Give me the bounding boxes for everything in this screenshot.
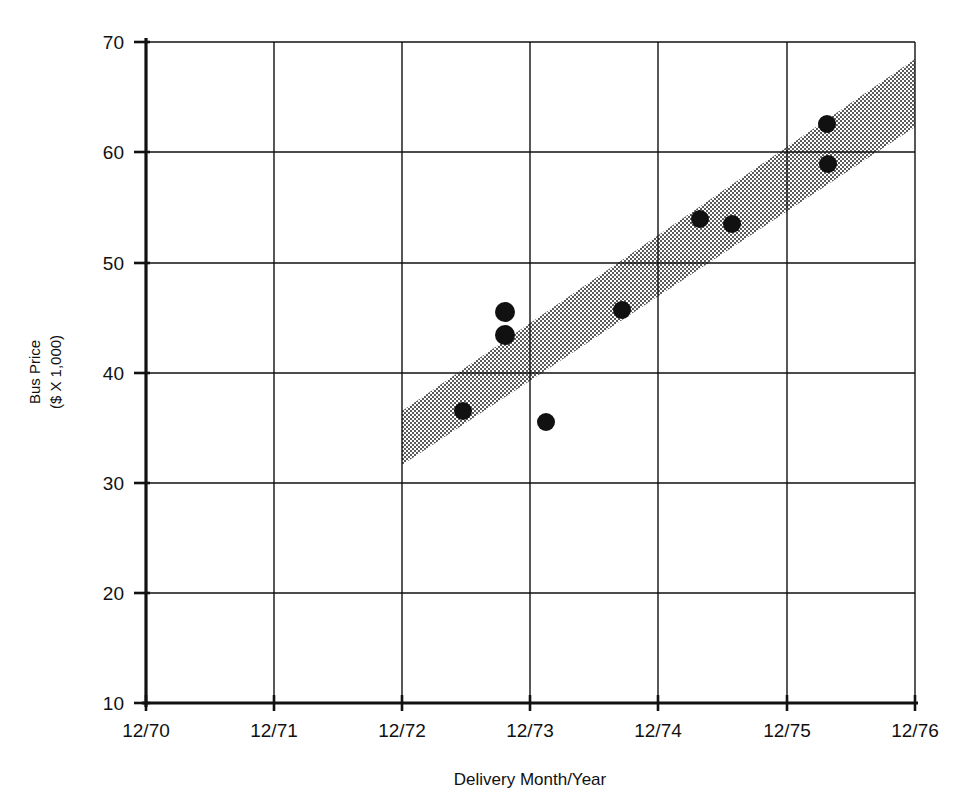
- data-point: [818, 115, 836, 133]
- data-point: [613, 301, 631, 319]
- data-point: [723, 215, 741, 233]
- x-axis-title: Delivery Month/Year: [454, 770, 607, 789]
- y-tick-label: 50: [103, 253, 124, 274]
- data-point: [495, 325, 515, 345]
- data-point: [691, 210, 709, 228]
- x-tick-label: 12/71: [250, 720, 298, 741]
- chart-figure: 70 60 50 40 30 20 10 12/70 12/71 12/72 1…: [0, 0, 962, 811]
- y-axis-title-line2: ($ X 1,000): [47, 335, 64, 409]
- x-tick-label: 12/75: [763, 720, 811, 741]
- y-tick-marks: [134, 42, 150, 703]
- x-tick-label: 12/73: [506, 720, 554, 741]
- x-tick-labels: 12/70 12/71 12/72 12/73 12/74 12/75 12/7…: [122, 720, 939, 741]
- y-tick-label: 40: [103, 363, 124, 384]
- y-tick-label: 10: [103, 693, 124, 714]
- y-tick-label: 70: [103, 32, 124, 53]
- y-tick-label: 20: [103, 583, 124, 604]
- x-tick-label: 12/70: [122, 720, 170, 741]
- bus-price-scatter-chart: 70 60 50 40 30 20 10 12/70 12/71 12/72 1…: [0, 0, 962, 811]
- data-point: [454, 402, 472, 420]
- x-tick-label: 12/72: [378, 720, 426, 741]
- x-tick-label: 12/74: [634, 720, 682, 741]
- y-tick-labels: 70 60 50 40 30 20 10: [103, 32, 124, 714]
- y-axis-title-line1: Bus Price: [26, 340, 43, 404]
- x-tick-label: 12/76: [891, 720, 939, 741]
- data-point: [537, 413, 555, 431]
- data-point: [495, 302, 515, 322]
- data-point: [819, 155, 837, 173]
- y-axis-title: Bus Price ($ X 1,000): [26, 335, 64, 409]
- y-tick-label: 30: [103, 473, 124, 494]
- y-tick-label: 60: [103, 142, 124, 163]
